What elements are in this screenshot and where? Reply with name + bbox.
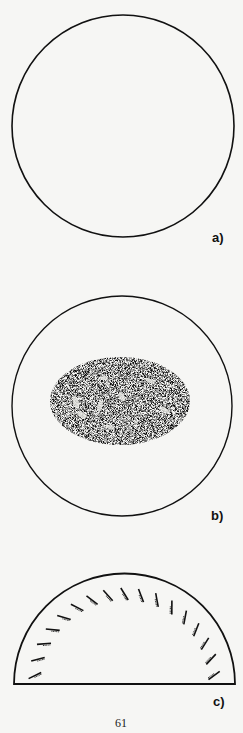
hatch-mark (209, 671, 220, 679)
hatch-stipple (34, 594, 214, 679)
figure-a-circle (12, 15, 234, 237)
figure-canvas (0, 0, 243, 733)
hatch-mark (206, 654, 216, 664)
hatch-mark (184, 611, 187, 625)
hatch-mark (201, 638, 208, 650)
figure-a (12, 15, 234, 237)
stippled-oval (50, 357, 190, 445)
hatch-mark (37, 643, 51, 644)
hatch-mark (103, 590, 112, 600)
hatch-mark (121, 588, 128, 600)
page-number: 61 (115, 716, 127, 731)
hatch-mark (87, 596, 98, 605)
figure-c-label: c) (213, 694, 225, 709)
figure-c (14, 574, 235, 685)
figure-b-label: b) (211, 508, 223, 523)
figure-b (12, 296, 232, 516)
figure-a-label: a) (212, 230, 224, 245)
hatch-mark (46, 629, 60, 630)
radial-hatch-marks (29, 588, 220, 680)
